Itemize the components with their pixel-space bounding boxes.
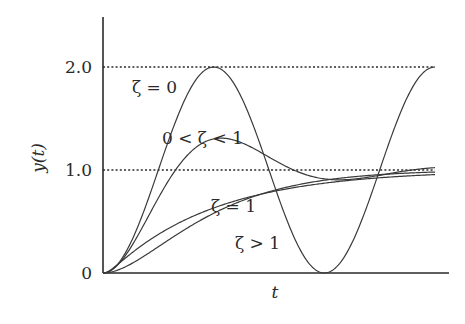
y-tick-label-1: 1.0 bbox=[65, 160, 92, 180]
y-tick-label-0: 0 bbox=[81, 263, 92, 283]
label-overdamped: ζ > 1 bbox=[235, 233, 280, 253]
label-underdamped: 0 < ζ < 1 bbox=[162, 128, 243, 148]
y-tick-label-2: 2.0 bbox=[65, 57, 92, 77]
label-critically-damped: ζ = 1 bbox=[211, 196, 256, 216]
curve-overdamped bbox=[103, 175, 435, 273]
step-response-chart: 2.0 1.0 0 t y(t) ζ = 0 0 < ζ < 1 ζ = 1 ζ… bbox=[0, 0, 465, 324]
y-axis-label: y(t) bbox=[28, 143, 48, 174]
label-zeta-0: ζ = 0 bbox=[132, 77, 177, 97]
x-axis-label: t bbox=[272, 282, 279, 302]
